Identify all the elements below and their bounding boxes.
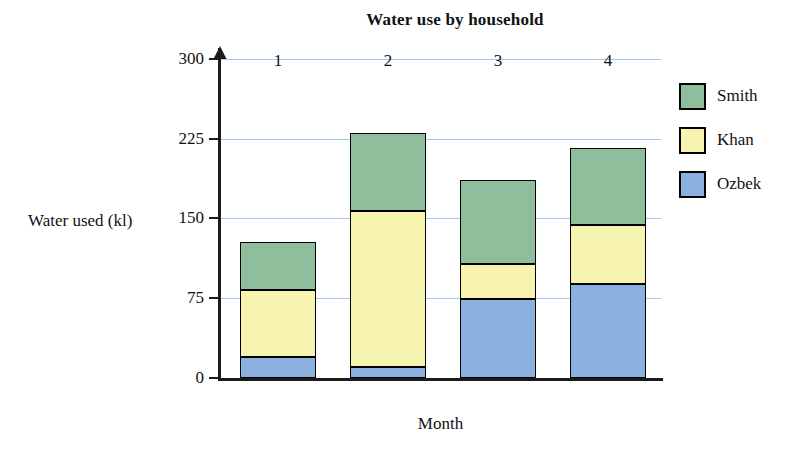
legend-item-ozbek[interactable]: Ozbek xyxy=(679,162,801,206)
chart-page: Water use by household Water used (kl) M… xyxy=(0,0,805,454)
y-axis-tick-label: 300 xyxy=(179,49,205,69)
yellow-swatch xyxy=(679,127,706,154)
bar-column: 4 xyxy=(570,38,646,379)
y-axis-tick xyxy=(209,138,220,140)
green-swatch xyxy=(679,83,706,110)
bar-column: 2 xyxy=(350,38,426,379)
y-axis-tick xyxy=(209,217,220,219)
legend-item-label: Smith xyxy=(717,86,758,106)
legend-item-smith[interactable]: Smith xyxy=(679,74,801,118)
y-axis-line xyxy=(218,48,221,379)
y-axis-title: Water used (kl) xyxy=(28,211,132,231)
y-axis-tick xyxy=(209,297,220,299)
blue-swatch xyxy=(679,171,706,198)
x-axis-tick-label: 4 xyxy=(570,51,646,71)
legend-item-label: Ozbek xyxy=(717,174,761,194)
x-axis-tick-label: 2 xyxy=(350,51,426,71)
plot-area: 075150225300 1234 xyxy=(218,38,663,379)
x-axis-tick-label: 1 xyxy=(240,51,316,71)
y-axis-tick-label: 150 xyxy=(179,208,205,228)
y-axis-tick-label: 0 xyxy=(196,368,205,388)
y-axis-tick xyxy=(209,58,220,60)
y-axis-tick xyxy=(209,377,220,379)
bar-column: 3 xyxy=(460,38,536,379)
y-axis-tick-label: 225 xyxy=(179,129,205,149)
x-axis-title: Month xyxy=(218,414,663,434)
chart-legend: SmithKhanOzbek xyxy=(679,74,801,206)
y-axis-tick-label: 75 xyxy=(187,288,204,308)
chart-title: Water use by household xyxy=(255,10,655,30)
legend-item-label: Khan xyxy=(717,130,754,150)
bar-column: 1 xyxy=(240,38,316,379)
x-axis-tick-label: 3 xyxy=(460,51,536,71)
legend-item-khan[interactable]: Khan xyxy=(679,118,801,162)
